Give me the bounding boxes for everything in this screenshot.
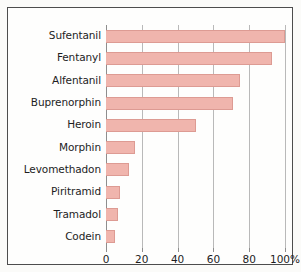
bar-row xyxy=(106,230,285,243)
category-label: Heroin xyxy=(9,118,101,130)
bar xyxy=(106,30,285,43)
bar-row xyxy=(106,141,285,154)
tick-mark xyxy=(285,248,286,252)
tick-mark xyxy=(178,248,179,252)
bar-row xyxy=(106,186,285,199)
bar xyxy=(106,208,118,221)
chart-frame: SufentanilFentanylAlfentanilBuprenorphin… xyxy=(7,7,293,265)
bar xyxy=(106,141,135,154)
tick-mark xyxy=(142,248,143,252)
bar-row xyxy=(106,208,285,221)
plot-area xyxy=(106,25,285,248)
category-label: Codein xyxy=(9,230,101,242)
bar xyxy=(106,230,115,243)
bar-row xyxy=(106,74,285,87)
tick-mark xyxy=(106,248,107,252)
bar-row xyxy=(106,30,285,43)
value-tick-label: 0 xyxy=(103,253,110,265)
bar xyxy=(106,97,233,110)
value-tick-label: 20 xyxy=(135,253,148,265)
gridline xyxy=(285,25,286,248)
bar xyxy=(106,52,272,65)
bar xyxy=(106,186,120,199)
bar xyxy=(106,74,240,87)
category-label: Alfentanil xyxy=(9,74,101,86)
category-label: Piritramid xyxy=(9,185,101,197)
category-label: Sufentanil xyxy=(9,29,101,41)
bar-row xyxy=(106,119,285,132)
bar-row xyxy=(106,52,285,65)
value-tick-label: 40 xyxy=(171,253,184,265)
chart-screenshot: SufentanilFentanylAlfentanilBuprenorphin… xyxy=(0,0,301,272)
category-label: Tramadol xyxy=(9,208,101,220)
category-axis-labels: SufentanilFentanylAlfentanilBuprenorphin… xyxy=(8,25,101,248)
bar xyxy=(106,163,129,176)
value-axis-labels: 020406080100% xyxy=(8,253,301,269)
value-tick-label: 60 xyxy=(207,253,220,265)
bar xyxy=(106,119,196,132)
category-label: Fentanyl xyxy=(9,51,101,63)
value-tick-label: 80 xyxy=(243,253,256,265)
tick-mark xyxy=(249,248,250,252)
category-label: Buprenorphin xyxy=(9,96,101,108)
value-tick-label: 100% xyxy=(270,253,300,265)
bar-row xyxy=(106,97,285,110)
tick-mark xyxy=(213,248,214,252)
bar-row xyxy=(106,163,285,176)
category-label: Morphin xyxy=(9,141,101,153)
category-label: Levomethadon xyxy=(9,163,101,175)
